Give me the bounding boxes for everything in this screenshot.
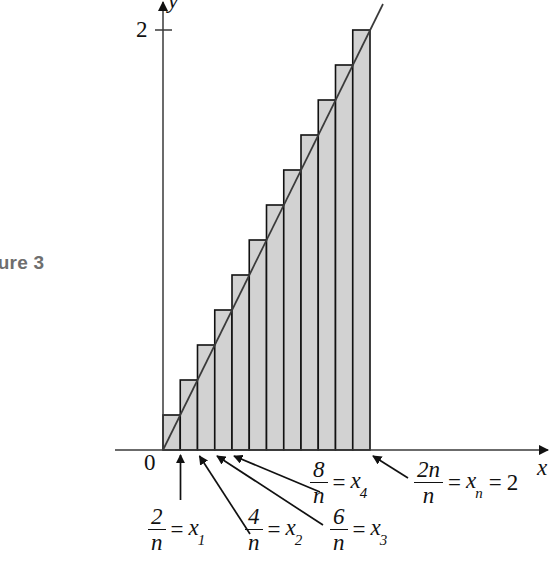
fraction-numerator: 2n: [414, 458, 443, 482]
fraction-denominator: n: [245, 529, 263, 554]
variable-x1: x1: [188, 515, 206, 545]
equals-sign: =: [332, 470, 347, 496]
fraction-numerator: 4: [245, 505, 263, 529]
riemann-bar: [180, 380, 197, 450]
variable-x2: x2: [285, 515, 303, 545]
fraction-denominator: n: [148, 529, 166, 554]
label-xn: 2n n = xn = 2: [414, 458, 518, 507]
fraction-2-over-n: 2 n: [148, 505, 166, 554]
equals-sign-2: =: [488, 470, 503, 496]
riemann-bar: [301, 135, 318, 450]
variable-xn: xn: [466, 468, 484, 498]
leader-xn: [373, 456, 408, 478]
riemann-bar: [267, 205, 284, 450]
leader-x4: [234, 456, 320, 492]
variable-x4: x4: [350, 468, 368, 498]
fraction-denominator: n: [330, 529, 348, 554]
riemann-bar: [336, 65, 353, 450]
fraction-6-over-n: 6 n: [330, 505, 348, 554]
equals-sign: =: [447, 470, 462, 496]
fraction-4-over-n: 4 n: [245, 505, 263, 554]
fraction-numerator: 2: [148, 505, 166, 529]
variable-x3: x3: [370, 515, 388, 545]
equals-sign: =: [267, 517, 282, 543]
equals-sign: =: [170, 517, 185, 543]
fraction-denominator: n: [310, 482, 328, 507]
label-x4: 8 n = x4: [310, 458, 368, 507]
x-axis-label: x: [537, 455, 547, 481]
riemann-bar: [353, 30, 370, 450]
leader-x2: [200, 456, 251, 534]
label-x2: 4 n = x2: [245, 505, 303, 554]
riemann-bar: [215, 310, 232, 450]
fraction-8-over-n: 8 n: [310, 458, 328, 507]
figure-container: gure 3: [0, 0, 555, 561]
riemann-bar: [318, 100, 335, 450]
riemann-bar: [232, 275, 249, 450]
fraction-denominator: n: [414, 482, 443, 507]
xn-value: 2: [507, 470, 519, 496]
fraction-numerator: 6: [330, 505, 348, 529]
equals-sign: =: [352, 517, 367, 543]
y-axis-tick-label-2: 2: [136, 17, 148, 43]
fraction-numerator: 8: [310, 458, 328, 482]
label-x1: 2 n = x1: [148, 505, 206, 554]
y-axis-label: y: [168, 0, 178, 14]
fraction-2n-over-n: 2n n: [414, 458, 443, 507]
label-x3: 6 n = x3: [330, 505, 388, 554]
origin-label: 0: [144, 450, 156, 476]
riemann-bar: [284, 170, 301, 450]
